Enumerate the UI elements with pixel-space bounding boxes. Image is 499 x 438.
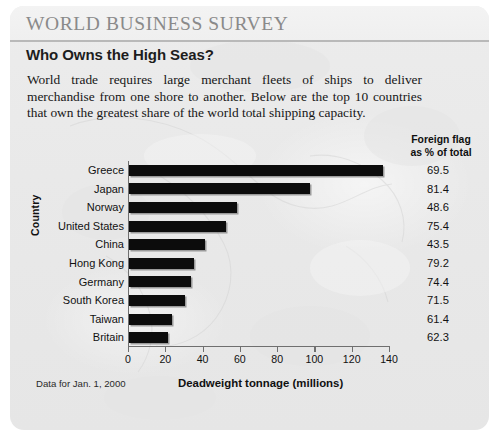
tick-label: 100	[306, 353, 324, 365]
bar-row	[129, 235, 390, 254]
bar	[129, 183, 310, 194]
tick-mark	[314, 347, 315, 352]
bar-row	[129, 273, 390, 292]
bar	[129, 332, 168, 343]
bar-row	[129, 217, 390, 236]
tick-label: 60	[234, 353, 246, 365]
bar-row	[129, 328, 390, 347]
bar	[129, 165, 383, 176]
plot-area: 020406080100120140	[128, 161, 390, 347]
tick-mark	[165, 347, 166, 352]
bar	[129, 295, 185, 306]
tick-mark	[203, 347, 204, 352]
tick-label: 80	[271, 353, 283, 365]
category-label: Norway	[40, 198, 124, 217]
bar	[129, 202, 237, 213]
tick-label: 140	[380, 353, 398, 365]
category-label: Greece	[40, 161, 124, 180]
tick-label: 20	[159, 353, 171, 365]
tick-mark	[352, 347, 353, 352]
tick-mark	[389, 347, 390, 352]
category-label: China	[40, 235, 124, 254]
tick-label: 40	[197, 353, 209, 365]
bar	[129, 276, 191, 287]
category-label: South Korea	[40, 291, 124, 310]
category-label: Hong Kong	[40, 254, 124, 273]
category-label: United States	[40, 217, 124, 236]
bar	[129, 314, 172, 325]
source-note: Data for Jan. 1, 2000	[36, 378, 126, 389]
category-label: Taiwan	[40, 310, 124, 329]
bar-row	[129, 310, 390, 329]
tick-mark	[240, 347, 241, 352]
category-label: Japan	[40, 180, 124, 199]
category-label: Germany	[40, 273, 124, 292]
bar-series	[129, 161, 390, 347]
x-axis-ticks: 020406080100120140	[128, 347, 390, 367]
page-root: WORLD BUSINESS SURVEY Who Owns the High …	[0, 0, 499, 438]
bar	[129, 221, 226, 232]
category-label-list: GreeceJapanNorwayUnited StatesChinaHong …	[40, 161, 124, 347]
tick-label: 120	[343, 353, 361, 365]
bar-row	[129, 161, 390, 180]
category-label: Britain	[40, 328, 124, 347]
tick-label: 0	[125, 353, 131, 365]
survey-panel: WORLD BUSINESS SURVEY Who Owns the High …	[10, 6, 489, 430]
bar	[129, 258, 194, 269]
bar-row	[129, 198, 390, 217]
bar-row	[129, 254, 390, 273]
bar-row	[129, 291, 390, 310]
bar	[129, 239, 205, 250]
x-axis-title: Deadweight tonnage (millions)	[178, 377, 343, 389]
tick-mark	[277, 347, 278, 352]
bar-row	[129, 180, 390, 199]
bar-chart: Country GreeceJapanNorwayUnited StatesCh…	[10, 6, 489, 430]
tick-mark	[128, 347, 129, 352]
